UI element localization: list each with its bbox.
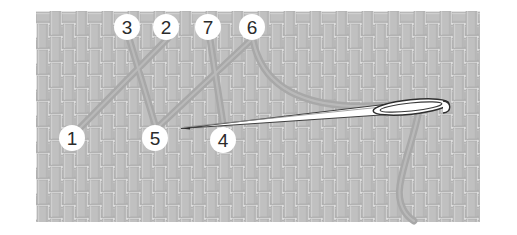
fabric-thread-highlight xyxy=(103,63,104,87)
fabric-thread-highlight xyxy=(90,24,91,48)
fabric-thread-highlight xyxy=(194,102,195,126)
fabric-thread-highlight xyxy=(493,89,494,113)
fabric-thread-highlight xyxy=(298,232,299,235)
fabric-thread-highlight xyxy=(38,24,39,48)
fabric-thread-shade xyxy=(478,125,502,126)
fabric-thread-shade xyxy=(163,193,164,217)
fabric-thread-over xyxy=(127,233,151,235)
fabric-thread-highlight xyxy=(116,232,117,235)
fabric-thread-shade xyxy=(85,141,86,165)
fabric-thread-highlight xyxy=(337,11,338,35)
fabric-thread-over xyxy=(491,233,515,235)
fabric-thread-highlight xyxy=(233,63,234,87)
fabric-thread-shade xyxy=(449,37,450,61)
fabric-thread-highlight xyxy=(415,37,416,61)
fabric-thread-highlight xyxy=(116,154,117,178)
fabric-thread-highlight xyxy=(480,180,481,204)
fabric-thread-shade xyxy=(436,128,437,152)
fabric-thread-over xyxy=(478,168,502,179)
fabric-thread-highlight xyxy=(337,219,338,235)
fabric-thread-shade xyxy=(163,167,164,191)
fabric-thread-shade xyxy=(218,229,242,230)
fabric-thread-highlight xyxy=(77,89,78,113)
fabric-thread-shade xyxy=(114,229,138,230)
fabric-thread-highlight xyxy=(480,102,481,126)
fabric-thread-shade xyxy=(254,76,255,100)
fabric-thread-highlight xyxy=(233,89,234,113)
fabric-thread-highlight xyxy=(90,154,91,178)
fabric-thread-shade xyxy=(332,206,333,230)
fabric-thread-shade xyxy=(332,154,333,178)
fabric-thread-highlight xyxy=(194,24,195,48)
fabric-thread-shade xyxy=(306,50,307,74)
fabric-thread-highlight xyxy=(75,234,99,235)
fabric-thread-over xyxy=(478,142,502,153)
fabric-thread-over xyxy=(478,194,502,205)
fabric-thread-shade xyxy=(166,229,190,230)
fabric-thread-shade xyxy=(371,193,372,217)
fabric-thread-shade xyxy=(98,180,99,204)
needle-end-cap xyxy=(443,101,450,113)
fabric-thread-highlight xyxy=(454,206,455,230)
fabric-thread-highlight xyxy=(272,154,273,178)
fabric-thread-highlight xyxy=(467,115,468,139)
fabric-thread-shade xyxy=(293,193,294,217)
fabric-thread-over xyxy=(141,232,152,235)
fabric-thread-shade xyxy=(436,206,437,230)
fabric-thread-shade xyxy=(501,89,502,113)
fabric-thread-highlight xyxy=(389,63,390,87)
fabric-thread-shade xyxy=(280,24,281,48)
fabric-thread-highlight xyxy=(272,128,273,152)
fabric-thread-shade xyxy=(475,167,476,191)
fabric-thread-shade xyxy=(46,76,47,100)
fabric-thread-highlight xyxy=(298,154,299,178)
fabric-thread-highlight xyxy=(129,141,130,165)
fabric-thread-shade xyxy=(189,63,190,87)
fabric-thread-shade xyxy=(267,89,268,113)
fabric-thread-highlight xyxy=(168,154,169,178)
fabric-thread-shade xyxy=(176,206,177,230)
fabric-thread-shade xyxy=(345,11,346,35)
fabric-thread-over xyxy=(491,77,515,88)
fabric-thread-shade xyxy=(358,128,359,152)
fabric-thread-highlight xyxy=(413,234,437,235)
fabric-thread-over xyxy=(491,207,515,218)
fabric-thread-shade xyxy=(488,50,489,74)
fabric-thread-shade xyxy=(410,76,411,100)
fabric-thread-over xyxy=(492,167,503,191)
fabric-thread-shade xyxy=(423,167,424,191)
fabric-thread-shade xyxy=(140,229,164,230)
fabric-thread-shade xyxy=(72,180,73,204)
fabric-thread-highlight xyxy=(363,193,364,217)
fabric-thread-highlight xyxy=(311,219,312,235)
fabric-thread-shade xyxy=(189,193,190,217)
fabric-thread-highlight xyxy=(493,11,494,35)
fabric-thread-highlight xyxy=(142,24,143,48)
fabric-thread-highlight xyxy=(428,76,429,100)
fabric-thread-shade xyxy=(384,50,385,74)
fabric-thread-highlight xyxy=(298,128,299,152)
fabric-thread-shade xyxy=(462,50,463,74)
fabric-thread-highlight xyxy=(376,76,377,100)
fabric-thread-over xyxy=(37,232,48,235)
fabric-thread-highlight xyxy=(127,234,151,235)
fabric-thread-highlight xyxy=(90,180,91,204)
fabric-thread-shade xyxy=(202,232,203,235)
fabric-thread-shade xyxy=(488,128,489,152)
fabric-thread-shade xyxy=(150,24,151,48)
fabric-thread-highlight xyxy=(77,219,78,235)
fabric-thread-highlight xyxy=(389,141,390,165)
fabric-thread-highlight xyxy=(285,37,286,61)
fabric-thread-shade xyxy=(475,37,476,61)
fabric-thread-highlight xyxy=(181,115,182,139)
fabric-thread-shade xyxy=(423,37,424,61)
fabric-thread-highlight xyxy=(51,11,52,35)
fabric-thread-highlight xyxy=(129,219,130,235)
fabric-thread-shade xyxy=(478,151,502,152)
fabric-thread-shade xyxy=(267,141,268,165)
fabric-thread-shade xyxy=(410,50,411,74)
fabric-thread-over xyxy=(335,233,359,235)
fabric-thread-highlight xyxy=(493,63,494,87)
stitch-point-4: 4 xyxy=(210,127,236,153)
fabric-thread-highlight xyxy=(428,180,429,204)
